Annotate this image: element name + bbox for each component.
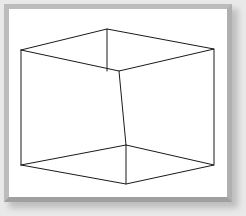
- edge-center-vertical: [119, 71, 126, 145]
- wireframe-cube-graphic: [0, 0, 246, 216]
- figure-root: [0, 0, 246, 216]
- edge-bottom-face: [21, 145, 214, 184]
- cube-edge-group: [21, 29, 214, 184]
- edge-top-face: [21, 29, 214, 71]
- cube-drawing-canvas: [0, 0, 246, 216]
